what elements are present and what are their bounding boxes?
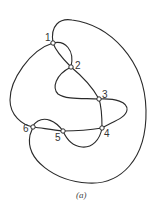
node-6 bbox=[31, 125, 35, 129]
edge-1-6-left bbox=[10, 43, 53, 127]
node-label-5: 5 bbox=[55, 133, 61, 143]
node-label-4: 4 bbox=[104, 129, 110, 139]
edge-1-6-outer bbox=[29, 20, 146, 183]
node-label-1: 1 bbox=[45, 33, 51, 43]
node-label-3: 3 bbox=[102, 90, 108, 100]
node-2 bbox=[69, 65, 73, 69]
edge-1-2-a bbox=[53, 42, 72, 67]
node-5 bbox=[61, 129, 65, 133]
node-1 bbox=[51, 41, 55, 45]
edge-3-4-loop bbox=[99, 99, 127, 128]
edge-1-2-b bbox=[53, 43, 71, 67]
node-3 bbox=[97, 97, 101, 101]
node-label-2: 2 bbox=[75, 61, 81, 71]
figure-caption: (a) bbox=[76, 190, 87, 200]
node-label-6: 6 bbox=[23, 124, 29, 134]
edge-2-3-straight bbox=[71, 67, 99, 99]
edge-5-6-straight bbox=[33, 127, 63, 131]
edge-3-4-straight bbox=[99, 99, 102, 128]
edge-4-5-straight bbox=[63, 128, 102, 131]
graph-diagram bbox=[0, 0, 164, 215]
